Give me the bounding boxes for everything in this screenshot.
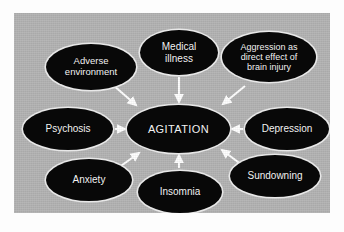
node-depression: Depression (245, 108, 329, 150)
node-label: Anxiety (50, 174, 128, 185)
figure-root: Adverseenvironment Medicalillness Aggres… (0, 0, 344, 232)
node-label: Medicalillness (144, 41, 214, 63)
node-label: Adverseenvironment (50, 56, 132, 77)
node-insomnia: Insomnia (138, 171, 222, 213)
arrow-aggression-to-agitation (223, 86, 245, 104)
node-label: Depression (249, 123, 325, 134)
node-label: Psychosis (27, 123, 109, 134)
node-label: Insomnia (142, 186, 218, 197)
arrow-adverse-to-agitation (113, 85, 136, 105)
node-agitation: AGITATION (127, 105, 230, 153)
node-medical-illness: Medicalillness (140, 30, 218, 75)
node-label: AGITATION (131, 123, 226, 135)
node-label: Sundowning (234, 170, 316, 181)
node-adverse-environment: Adverseenvironment (46, 44, 136, 90)
node-anxiety: Anxiety (46, 159, 132, 201)
node-sundowning: Sundowning (230, 155, 320, 197)
node-aggression-brain-injury: Aggression asdirect effect ofbrain injur… (222, 32, 316, 82)
diagram-panel: Adverseenvironment Medicalillness Aggres… (14, 13, 330, 213)
node-label: Aggression asdirect effect ofbrain injur… (226, 42, 312, 72)
node-psychosis: Psychosis (23, 108, 113, 150)
